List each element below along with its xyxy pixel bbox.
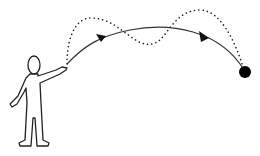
person-figure <box>10 56 67 146</box>
diagram-canvas <box>0 0 260 156</box>
person-head <box>28 56 40 74</box>
arrow-head-icon <box>199 31 209 42</box>
person-body <box>10 67 67 146</box>
dotted-trajectory <box>67 10 244 70</box>
solid-trajectory <box>67 27 244 70</box>
target-dot <box>239 66 251 78</box>
